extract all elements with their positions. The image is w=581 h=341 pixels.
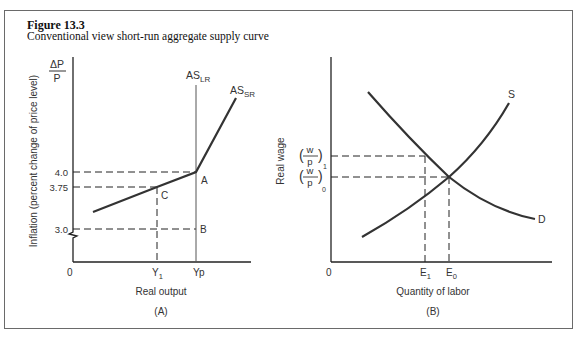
svg-text:1: 1 [323,163,327,170]
panel-b-x-axis-label: Quantity of labor [396,286,470,297]
diagram-canvas: ΔP P Inflation (percent change of price … [0,0,581,341]
point-a-label: A [201,175,208,186]
as-sr-label: ASSR [230,84,255,99]
demand-label: D [538,213,546,225]
svg-text:): ) [318,168,323,184]
panel-a-caption: (A) [154,306,167,317]
panel-b-caption: (B) [426,306,439,317]
supply-label: S [508,88,515,100]
panel-a-y-symbol-denominator: P [53,72,60,84]
svg-text:(: ( [299,168,304,184]
svg-text:w: w [306,144,314,155]
labor-demand-curve [368,92,535,219]
x-tick-yp: Yp [193,267,205,278]
svg-text:): ) [318,147,323,163]
panel-a-y-symbol-numerator: ΔP [50,58,64,70]
panel-a-x-axis-label: Real output [135,286,186,297]
panel-b: Real wage ( w p ) 1 ( w p ) 0 D [275,57,552,317]
y-tick-3-75: 3.75 [50,182,69,193]
svg-text:p: p [307,177,312,188]
x-tick-e0: E0 [446,267,457,281]
panel-a-origin: 0 [67,267,73,278]
axis-break-icon [69,228,77,262]
as-lr-label: ASLR [186,69,210,84]
x-tick-e1: E1 [420,267,431,281]
y-tick-4-0: 4.0 [55,167,68,178]
y-tick-wp0: ( w p ) 0 [299,165,326,193]
point-c-label: C [161,190,168,201]
panel-a: ΔP P Inflation (percent change of price … [28,57,255,317]
point-b-label: B [200,224,207,235]
x-tick-y1: Y1 [152,267,163,281]
y-tick-3-0: 3.0 [55,224,68,235]
labor-supply-curve [362,103,509,237]
svg-text:w: w [306,165,314,176]
panel-b-origin: 0 [326,267,332,278]
svg-text:0: 0 [322,186,326,193]
panel-a-y-axis-label: Inflation (percent change of price level… [28,75,39,247]
svg-text:(: ( [299,147,304,163]
panel-b-y-axis-label: Real wage [275,137,286,185]
